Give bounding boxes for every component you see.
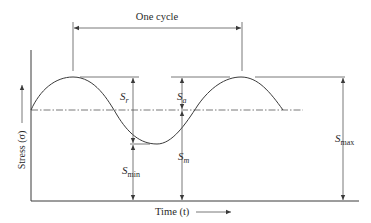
one-cycle-label: One cycle: [136, 11, 179, 22]
smin-label: Smin: [122, 164, 140, 179]
stress-curve: [31, 77, 283, 144]
svg-text:Sm: Sm: [178, 150, 190, 165]
x-axis-label-group: Time (t): [155, 206, 231, 218]
smax-label: Smax: [335, 132, 354, 147]
sm-label: Sm: [178, 150, 190, 165]
svg-text:Smin: Smin: [122, 164, 140, 179]
y-axis-label-group: Stress (σ): [16, 85, 28, 169]
x-axis-label: Time (t): [155, 206, 190, 218]
svg-text:Sa: Sa: [177, 90, 187, 105]
svg-text:Smax: Smax: [335, 132, 354, 147]
stress-cycle-diagram: One cycle Sr Smin Sa Sm Smax Stress (σ) …: [0, 0, 371, 223]
sr-label: Sr: [120, 90, 130, 105]
y-axis-label: Stress (σ): [16, 131, 28, 169]
svg-text:Sr: Sr: [120, 90, 130, 105]
sa-label: Sa: [177, 90, 187, 105]
